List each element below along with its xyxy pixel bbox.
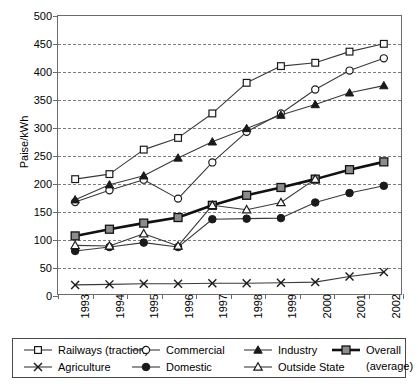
legend-item-outside-state[interactable]: Outside State bbox=[243, 360, 345, 374]
legend-item-label: Industry bbox=[278, 344, 317, 356]
legend-item-overall[interactable]: Overall bbox=[331, 343, 401, 357]
y-axis-tick-label: 0 bbox=[46, 290, 52, 302]
x-axis-tick-label: 1997 bbox=[217, 294, 229, 318]
data-point-marker bbox=[346, 189, 354, 197]
data-point-marker bbox=[174, 154, 182, 161]
open-triangle-marker-icon bbox=[243, 360, 273, 374]
data-point-marker bbox=[175, 135, 182, 142]
x-axis-tick-label: 2001 bbox=[355, 294, 367, 318]
data-point-marker bbox=[105, 225, 113, 233]
filled-triangle-marker-icon bbox=[243, 343, 273, 357]
data-point-marker bbox=[209, 159, 216, 166]
series-layer bbox=[58, 16, 401, 294]
legend-item-label: Outside State bbox=[278, 361, 345, 373]
x-axis-tick-mark bbox=[162, 294, 163, 299]
series-line bbox=[75, 44, 384, 179]
data-point-marker bbox=[342, 346, 350, 354]
data-point-marker bbox=[312, 86, 319, 93]
data-point-marker bbox=[277, 184, 285, 192]
data-point-marker bbox=[380, 55, 387, 62]
data-point-marker bbox=[140, 239, 148, 247]
series-line bbox=[75, 86, 384, 200]
x-axis-tick-label: 1994 bbox=[114, 294, 126, 318]
series-line bbox=[75, 272, 384, 285]
x-axis-tick-mark bbox=[369, 294, 370, 299]
data-point-marker bbox=[174, 195, 181, 202]
legend-item-industry[interactable]: Industry bbox=[243, 343, 317, 357]
y-axis-tick-label: 450 bbox=[34, 38, 52, 50]
x-axis-tick-label: 1993 bbox=[79, 294, 91, 318]
data-point-marker bbox=[35, 347, 42, 354]
data-point-marker bbox=[140, 219, 148, 227]
data-point-marker bbox=[346, 166, 354, 174]
x-axis-tick-mark bbox=[93, 294, 94, 299]
series-railways-traction bbox=[72, 40, 387, 182]
x-axis-tick-mark bbox=[231, 294, 232, 299]
data-point-marker bbox=[380, 81, 388, 88]
filled-square-marker-icon bbox=[331, 343, 361, 357]
legend-item-label: Commercial bbox=[166, 344, 225, 356]
x-axis-tick-label: 1999 bbox=[286, 294, 298, 318]
y-axis-tick-label: 100 bbox=[34, 234, 52, 246]
open-circle-marker-icon bbox=[131, 343, 161, 357]
data-point-marker bbox=[140, 172, 148, 179]
x-axis-tick-mark bbox=[334, 294, 335, 299]
plot-area: 050100150200250300350400450500 bbox=[57, 15, 402, 295]
data-point-marker bbox=[209, 110, 216, 117]
data-point-marker bbox=[106, 171, 113, 178]
data-point-marker bbox=[242, 124, 250, 131]
data-point-marker bbox=[243, 79, 250, 86]
x-axis-tick-mark bbox=[265, 294, 266, 299]
data-point-marker bbox=[140, 230, 148, 237]
y-axis-tick-label: 250 bbox=[34, 150, 52, 162]
data-point-marker bbox=[380, 182, 388, 190]
series-line bbox=[75, 162, 384, 236]
y-axis-tick-label: 500 bbox=[34, 10, 52, 22]
y-axis-tick-label: 300 bbox=[34, 122, 52, 134]
data-point-marker bbox=[346, 67, 353, 74]
filled-circle-marker-icon bbox=[131, 360, 161, 374]
y-axis-tick-label: 350 bbox=[34, 94, 52, 106]
x-axis-tick-mark bbox=[300, 294, 301, 299]
legend-item-agriculture[interactable]: Agriculture bbox=[23, 360, 111, 374]
series-commercial bbox=[72, 55, 388, 206]
legend-item-overall-average-suffix: (average) bbox=[366, 360, 413, 372]
data-point-marker bbox=[380, 158, 388, 166]
y-axis-tick-label: 400 bbox=[34, 66, 52, 78]
y-axis-tick-label: 150 bbox=[34, 206, 52, 218]
chart-figure: Paise/kWh 050100150200250300350400450500… bbox=[0, 0, 418, 387]
legend-item-label: Overall bbox=[366, 344, 401, 356]
data-point-marker bbox=[278, 63, 285, 70]
series-industry bbox=[71, 81, 388, 202]
y-axis-title: Paise/kWh bbox=[18, 92, 30, 192]
x-axis-tick-label: 1998 bbox=[252, 294, 264, 318]
x-axis-tick-label: 2002 bbox=[390, 294, 402, 318]
legend-item-domestic[interactable]: Domestic bbox=[131, 360, 212, 374]
x-axis-tick-mark bbox=[58, 294, 59, 299]
data-point-marker bbox=[243, 215, 251, 223]
data-point-marker bbox=[346, 48, 353, 55]
data-point-marker bbox=[142, 363, 150, 371]
y-axis-tick-label: 50 bbox=[40, 262, 52, 274]
legend-item-commercial[interactable]: Commercial bbox=[131, 343, 225, 357]
x-axis-tick-label: 2000 bbox=[321, 294, 333, 318]
legend-item-label: Domestic bbox=[166, 361, 212, 373]
series-line bbox=[75, 58, 384, 202]
series-overall-average bbox=[71, 158, 388, 240]
data-point-marker bbox=[174, 214, 182, 222]
data-point-marker bbox=[312, 59, 319, 66]
series-agriculture bbox=[71, 268, 388, 289]
x-axis-tick-label: 1995 bbox=[148, 294, 160, 318]
data-point-marker bbox=[208, 138, 216, 145]
data-point-marker bbox=[277, 198, 285, 205]
data-point-marker bbox=[243, 191, 251, 199]
x-axis-tick-label: 1996 bbox=[183, 294, 195, 318]
series-domestic bbox=[71, 182, 387, 255]
data-point-marker bbox=[380, 40, 387, 47]
legend-item-railways-traction[interactable]: Railways (traction) bbox=[23, 343, 148, 357]
chart-legend: Railways (traction)CommercialIndustryOve… bbox=[12, 338, 406, 378]
cross-x-marker-icon bbox=[23, 360, 53, 374]
x-axis-tick-mark bbox=[127, 294, 128, 299]
data-point-marker bbox=[277, 214, 285, 222]
data-point-marker bbox=[140, 146, 147, 153]
